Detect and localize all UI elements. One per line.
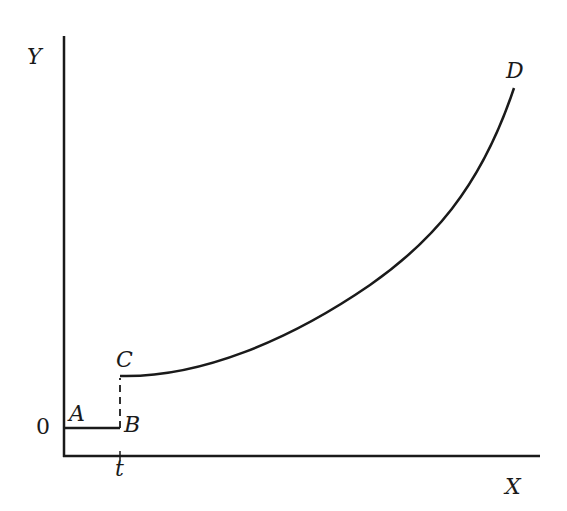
curve-c-d xyxy=(120,88,514,376)
y-axis-label: Y xyxy=(27,44,44,69)
point-label-d: D xyxy=(505,58,524,83)
point-label-b: B xyxy=(123,412,140,437)
point-label-a: A xyxy=(67,401,85,426)
step-curve-diagram: Y X 0 t A B C D xyxy=(0,0,567,511)
origin-label: 0 xyxy=(36,414,50,439)
x-axis-label: X xyxy=(503,474,522,499)
point-label-c: C xyxy=(116,347,133,372)
x-tick-label-t: t xyxy=(115,456,124,481)
